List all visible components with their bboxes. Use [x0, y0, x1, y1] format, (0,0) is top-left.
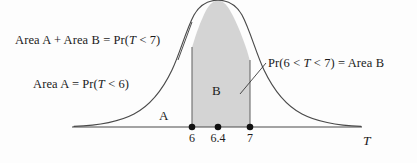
x-tick-label-6: 6: [189, 131, 195, 146]
axis-dot-7: [247, 124, 254, 131]
label-area-b-prefix: Pr(6 <: [268, 56, 304, 70]
label-area-a-suffix: < 6): [105, 77, 129, 91]
label-area-b-suffix: < 7) = Area B: [311, 56, 384, 70]
label-area-a-prefix: Area A = Pr(: [33, 77, 98, 91]
label-area-a-plus-b: Area A + Area B = Pr(T < 7): [15, 33, 160, 48]
shaded-area-b: [192, 1, 250, 128]
label-area-b: Pr(6 < T < 7) = Area B: [268, 56, 384, 71]
axis-dot-6: [189, 124, 196, 131]
x-axis-label: T: [363, 133, 371, 149]
label-sum-prefix: Area A + Area B = Pr(: [15, 33, 129, 47]
axis-dot-6-4: [215, 124, 222, 131]
leader-line-sum: [178, 22, 192, 60]
label-area-a: Area A = Pr(T < 6): [33, 77, 129, 92]
figure-container: Area A + Area B = Pr(T < 7) Area A = Pr(…: [0, 0, 417, 163]
x-tick-label-6-4: 6.4: [211, 131, 226, 146]
label-area-a-variable: T: [98, 77, 105, 91]
region-label-a: A: [159, 108, 168, 124]
label-sum-suffix: < 7): [136, 33, 160, 47]
region-label-b: B: [212, 83, 221, 99]
label-area-b-variable: T: [304, 56, 311, 70]
x-tick-label-7: 7: [247, 131, 253, 146]
